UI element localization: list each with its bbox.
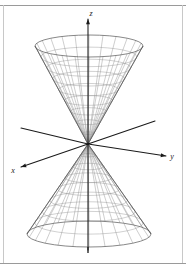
upper-cone-mesh	[35, 35, 143, 144]
lower-cone-mesh	[27, 144, 151, 247]
double-cone-plot: z x y	[0, 0, 186, 271]
axis-label-x: x	[10, 166, 15, 175]
axis-label-z: z	[88, 9, 93, 18]
axis-label-y: y	[169, 152, 174, 161]
figure-container: z x y	[0, 0, 186, 271]
